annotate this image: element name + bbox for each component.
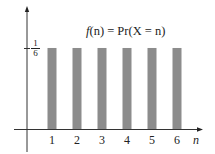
x-tick-labels: 123456: [49, 133, 180, 147]
bar-2: [73, 48, 82, 129]
x-tick-label-2: 2: [74, 133, 80, 147]
bar-5: [148, 48, 157, 129]
bar-3: [98, 48, 107, 129]
x-tick-label-6: 6: [174, 133, 180, 147]
x-axis-label: n: [193, 133, 199, 148]
bars-group: [48, 48, 182, 129]
x-tick-label-5: 5: [149, 133, 155, 147]
bar-6: [173, 48, 182, 129]
bar-1: [48, 48, 57, 129]
bar-4: [123, 48, 132, 129]
x-tick-label-4: 4: [124, 133, 130, 147]
chart-annotation: f(n) = Pr(X = n): [86, 24, 165, 39]
x-axis-arrow-icon: [197, 127, 203, 131]
y-tick-label: 1 6: [31, 39, 40, 58]
y-axis-arrow-icon: [25, 6, 29, 12]
x-tick-label-1: 1: [49, 133, 55, 147]
x-tick-label-3: 3: [99, 133, 105, 147]
y-tick-denominator: 6: [31, 49, 40, 58]
annotation-rest: (n) = Pr(X = n): [89, 24, 165, 38]
